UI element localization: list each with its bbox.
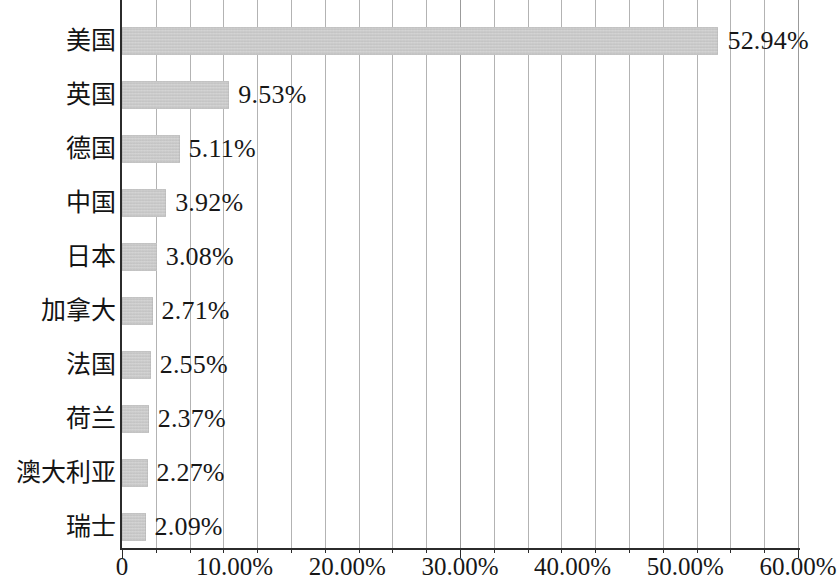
bar-row: 2.55% xyxy=(122,338,798,392)
category-label: 日本 xyxy=(0,230,116,284)
bar-row: 9.53% xyxy=(122,68,798,122)
bar-row: 2.09% xyxy=(122,500,798,554)
bar-value-label: 2.27% xyxy=(157,457,225,489)
bar-value-label: 9.53% xyxy=(238,79,306,111)
bar-value-label: 3.92% xyxy=(175,187,243,219)
x-axis-tick-label: 30.00% xyxy=(421,552,498,580)
bar[interactable] xyxy=(122,459,148,487)
bar[interactable] xyxy=(122,243,157,271)
bar[interactable] xyxy=(122,351,151,379)
gridline xyxy=(798,0,799,548)
category-label: 英国 xyxy=(0,68,116,122)
category-label: 法国 xyxy=(0,338,116,392)
category-label: 加拿大 xyxy=(0,284,116,338)
bar[interactable] xyxy=(122,297,153,325)
y-axis-line xyxy=(120,0,122,550)
x-axis-tick-label: 40.00% xyxy=(534,552,611,580)
category-axis-labels: 美国英国德国中国日本加拿大法国荷兰澳大利亚瑞士 xyxy=(0,0,116,548)
bar-row: 52.94% xyxy=(122,14,798,68)
category-label: 荷兰 xyxy=(0,392,116,446)
bars-layer: 52.94%9.53%5.11%3.92%3.08%2.71%2.55%2.37… xyxy=(122,0,798,548)
bar-row: 3.92% xyxy=(122,176,798,230)
x-axis-tick-label: 10.00% xyxy=(196,552,273,580)
category-label: 瑞士 xyxy=(0,500,116,554)
bar-row: 2.37% xyxy=(122,392,798,446)
bar[interactable] xyxy=(122,81,229,109)
x-axis-tick-label: 0 xyxy=(116,552,129,580)
x-axis-labels: 010.00%20.00%30.00%40.00%50.00%60.00% xyxy=(0,552,838,580)
bar[interactable] xyxy=(122,405,149,433)
plot-area: 52.94%9.53%5.11%3.92%3.08%2.71%2.55%2.37… xyxy=(122,0,798,548)
bar-chart: 美国英国德国中国日本加拿大法国荷兰澳大利亚瑞士 52.94%9.53%5.11%… xyxy=(0,0,838,580)
bar-row: 2.71% xyxy=(122,284,798,338)
bar[interactable] xyxy=(122,135,180,163)
bar[interactable] xyxy=(122,27,718,55)
bar[interactable] xyxy=(122,189,166,217)
bar-row: 2.27% xyxy=(122,446,798,500)
bar-value-label: 52.94% xyxy=(727,25,808,57)
x-axis-tick-label: 50.00% xyxy=(647,552,724,580)
bar-value-label: 2.71% xyxy=(162,295,230,327)
bar-value-label: 2.37% xyxy=(158,403,226,435)
bar-value-label: 2.55% xyxy=(160,349,228,381)
category-label: 德国 xyxy=(0,122,116,176)
bar-value-label: 5.11% xyxy=(189,133,256,165)
x-axis-tick-label: 60.00% xyxy=(759,552,836,580)
bar-value-label: 2.09% xyxy=(155,511,223,543)
bar[interactable] xyxy=(122,513,146,541)
category-label: 澳大利亚 xyxy=(0,446,116,500)
category-label: 美国 xyxy=(0,14,116,68)
bar-value-label: 3.08% xyxy=(166,241,234,273)
bar-row: 5.11% xyxy=(122,122,798,176)
x-axis-tick-label: 20.00% xyxy=(309,552,386,580)
category-label: 中国 xyxy=(0,176,116,230)
bar-row: 3.08% xyxy=(122,230,798,284)
